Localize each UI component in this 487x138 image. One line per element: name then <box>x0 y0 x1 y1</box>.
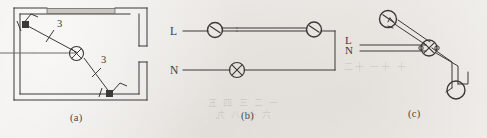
conductor-label-1: 3 <box>57 18 62 29</box>
wire-switch1-to-lamp <box>26 25 78 53</box>
panel-c-wiring: L N (c) <box>340 0 487 138</box>
conductor-label-2: 3 <box>101 54 106 65</box>
window-top <box>47 9 115 14</box>
caption-c: (c) <box>408 108 421 119</box>
lamp-symbol-b <box>230 63 245 78</box>
panel-b-schematic: L N (b) <box>165 0 340 138</box>
switch-symbol-c-top <box>380 11 397 28</box>
caption-b: (b) <box>241 110 254 121</box>
caption-a: (a) <box>70 112 83 123</box>
label-live-b: L <box>170 25 177 37</box>
conduit-to-bottom-switch-inner <box>436 53 458 84</box>
conduit-to-top-switch-inner <box>398 20 430 42</box>
label-neutral-c: N <box>345 44 353 56</box>
switch-symbol-b-left <box>208 23 223 38</box>
switch-symbol-b-right <box>307 22 322 37</box>
panel-a-floor-plan: 3 3 (a) <box>0 0 165 138</box>
label-neutral-b: N <box>170 64 179 76</box>
switch-symbol-bottom-right <box>99 83 127 97</box>
